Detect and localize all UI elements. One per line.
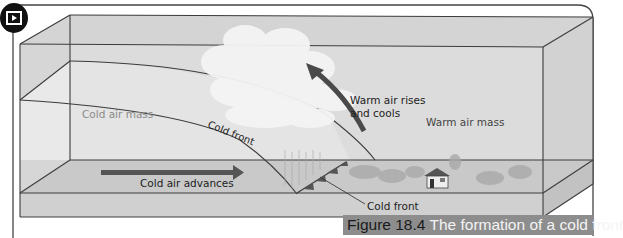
label-warm-air-rises-1: Warm air rises	[350, 94, 425, 106]
base-front	[20, 193, 543, 217]
video-play-icon[interactable]	[0, 3, 28, 33]
label-warm-air-mass: Warm air mass	[426, 116, 504, 128]
label-cold-front-pointer: Cold front	[367, 200, 419, 212]
figure-number: Figure 18.4	[347, 216, 425, 233]
figure-title: The formation of a cold front	[429, 216, 623, 233]
label-cold-air-mass: Cold air mass	[82, 108, 153, 120]
film-play-glyph	[0, 3, 28, 33]
cold-air-arrow	[101, 170, 235, 175]
label-cold-air-advances: Cold air advances	[140, 177, 234, 189]
figure-caption: Figure 18.4 The formation of a cold fron…	[343, 215, 593, 235]
label-warm-air-rises-2: and cools	[350, 107, 400, 119]
